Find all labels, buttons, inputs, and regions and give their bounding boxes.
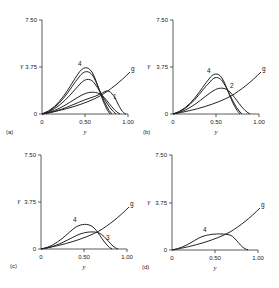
panel-d-ticks xyxy=(169,155,258,253)
panel-b-xlabel: y xyxy=(213,128,218,136)
panel-a: 7.50 3.75 0 0 0.50 1.00 γ y (a) 4 1 g xyxy=(6,17,135,136)
panel-d-xtick-end: 1.00 xyxy=(252,255,264,261)
panel-a-label: (a) xyxy=(6,129,13,135)
panel-a-xtick-mid: 0.50 xyxy=(79,119,91,125)
panel-b-ytick-top: 7.50 xyxy=(156,17,168,23)
panel-c-ytick-top: 7.50 xyxy=(24,152,36,158)
panel-a-curve-label-g: g xyxy=(131,65,135,73)
panel-c-curve-label-3: 3 xyxy=(106,234,110,241)
panel-b-curve-label-4: 4 xyxy=(207,67,211,74)
panel-b-label: (b) xyxy=(143,129,150,135)
panel-d-axes xyxy=(172,155,258,250)
panel-c-xtick-end: 1.00 xyxy=(121,254,133,260)
panel-b-curve-label-2: 2 xyxy=(230,82,234,89)
panel-c-label: (c) xyxy=(10,263,17,269)
panel-c-curve-g xyxy=(41,207,129,249)
panel-d-label: (d) xyxy=(142,264,149,270)
panel-d-ylabel: γ xyxy=(148,198,151,206)
panel-b-ylabel: γ xyxy=(148,62,151,70)
panel-d-ytick-zero: 0 xyxy=(164,247,168,253)
panel-c-curve-4 xyxy=(41,224,112,249)
panel-a-xlabel: y xyxy=(82,128,87,136)
panel-a-curve-label-4: 4 xyxy=(78,60,82,67)
panel-a-ytick-top: 7.50 xyxy=(25,17,37,23)
panel-c-ytick-zero: 0 xyxy=(33,246,37,252)
panel-b-ytick-zero: 0 xyxy=(165,111,169,117)
panel-b-ytick-mid: 3.75 xyxy=(156,64,168,70)
panel-c-ytick-mid: 3.75 xyxy=(24,199,36,205)
panel-c-xlabel: y xyxy=(81,263,86,271)
panel-d-curve-label-g: g xyxy=(261,201,265,209)
panel-c-ticks xyxy=(38,155,127,252)
panel-c-xtick-mid: 0.50 xyxy=(78,254,90,260)
panel-b-xtick-mid: 0.50 xyxy=(210,119,222,125)
panel-a-ylabel: γ xyxy=(21,62,24,70)
panel-b-axes xyxy=(173,20,259,114)
panel-b-xtick-end: 1.00 xyxy=(253,119,265,125)
panel-b-xtick-zero: 0 xyxy=(171,119,175,125)
panel-a-ytick-mid: 3.75 xyxy=(25,64,37,70)
panel-d-xtick-zero: 0 xyxy=(170,255,174,261)
panel-d-curve-g xyxy=(172,208,260,250)
panel-a-curve-label-1: 1 xyxy=(113,93,117,100)
panel-c-curve-label-g: g xyxy=(130,200,134,208)
panel-d: 7.50 3.75 0 0 0.50 1.00 γ y (d) 4 g xyxy=(142,152,265,272)
panel-c-curve-label-4: 4 xyxy=(73,216,77,223)
panel-c: 7.50 3.75 0 0 0.50 1.00 γ y (c) 4 3 g xyxy=(10,152,134,271)
panel-b: 7.50 3.75 0 0 0.50 1.00 γ y (b) 4 2 g xyxy=(143,17,266,136)
panel-d-ytick-top: 7.50 xyxy=(155,152,167,158)
panel-a-xtick-end: 1.00 xyxy=(122,119,134,125)
panel-c-axes xyxy=(41,155,127,249)
panel-c-xtick-zero: 0 xyxy=(39,254,43,260)
panel-b-ticks xyxy=(170,20,259,117)
panel-d-curve-label-4: 4 xyxy=(203,226,207,233)
panel-b-curve-label-g: g xyxy=(262,65,266,73)
panel-c-ylabel: γ xyxy=(18,197,21,205)
panel-a-xtick-zero: 0 xyxy=(40,119,44,125)
panel-d-ytick-mid: 3.75 xyxy=(155,200,167,206)
panel-a-ytick-zero: 0 xyxy=(34,111,38,117)
figure: 7.50 3.75 0 0 0.50 1.00 γ y (a) 4 1 g 7.… xyxy=(0,0,279,288)
panel-d-xlabel: y xyxy=(212,264,217,272)
panel-d-xtick-mid: 0.50 xyxy=(209,255,221,261)
